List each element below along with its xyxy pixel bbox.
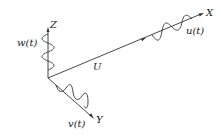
y-axis (48, 78, 91, 116)
z-axis-label: Z (50, 20, 57, 30)
mean-flow-arrow-icon (141, 38, 146, 42)
diagram-drawing (0, 0, 221, 136)
x-axis (48, 14, 201, 78)
y-axis-label: Y (96, 115, 103, 125)
y-axis-arrowhead (89, 113, 94, 119)
x-axis-label: X (206, 8, 213, 18)
v-wave (56, 85, 88, 109)
x-axis-arrowhead (199, 13, 205, 17)
coordinate-diagram: Z X Y U w(t) u(t) v(t) (0, 0, 221, 136)
v-component-label: v(t) (68, 119, 85, 129)
w-component-label: w(t) (17, 38, 37, 48)
mean-flow-label: U (93, 62, 101, 72)
u-component-label: u(t) (186, 26, 204, 36)
